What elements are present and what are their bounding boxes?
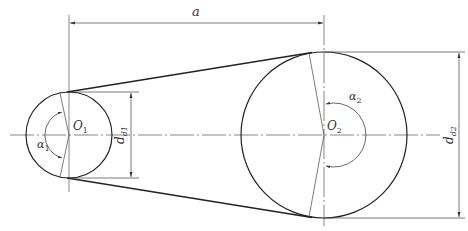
center-label-o1: O1 (73, 119, 88, 135)
center-label-o2: O2 (327, 119, 342, 135)
diameter-label-large: dd2 (442, 126, 458, 144)
belt-lower-span (67, 178, 312, 218)
wrap-angle-label-large: α2 (349, 90, 362, 105)
center-distance-label: a (192, 4, 200, 19)
wrap-angle-label-small: α1 (37, 138, 50, 153)
belt-upper-span (67, 53, 312, 93)
belt-drive-diagram: a α1 O1 α2 O2 dd1 dd2 (0, 0, 468, 231)
radius-line-large-upper (309, 53, 324, 135)
radius-line-small-lower (60, 135, 69, 177)
radius-line-small-upper (60, 93, 69, 135)
radius-line-large-lower (309, 135, 324, 217)
